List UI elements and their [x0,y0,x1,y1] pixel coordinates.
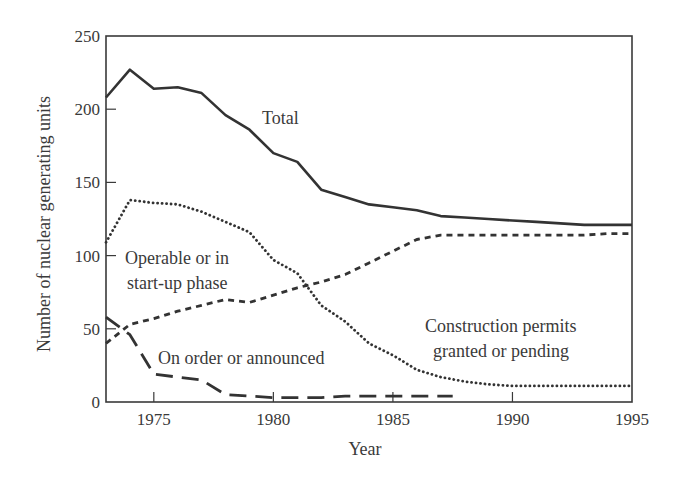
annotation-construction-line2: granted or pending [433,341,569,361]
x-tick-label: 1990 [495,410,529,429]
y-tick-label: 150 [75,173,101,192]
y-tick-label: 250 [75,27,101,46]
x-tick-label: 1995 [615,410,649,429]
x-axis-title: Year [348,439,381,459]
x-tick-label: 1980 [256,410,290,429]
annotation-operable-line1: Operable or in [125,248,229,268]
y-axis: 050100150200250 [75,27,117,412]
y-tick-label: 100 [75,247,101,266]
annotation-on-order: On order or announced [158,348,324,368]
y-tick-label: 200 [75,100,101,119]
annotation-construction-line1: Construction permits [425,316,577,336]
x-axis: 19751980198519901995 [137,392,649,429]
y-axis-title: Number of nuclear generating units [34,96,54,352]
series-total [106,70,632,225]
annotation-operable-line2: start-up phase [127,273,227,293]
line-chart: 050100150200250 19751980198519901995 Num… [0,0,688,477]
x-tick-label: 1985 [376,410,410,429]
y-tick-label: 0 [92,393,101,412]
annotation-total: Total [262,108,299,128]
x-tick-label: 1975 [137,410,171,429]
y-tick-label: 50 [83,320,100,339]
